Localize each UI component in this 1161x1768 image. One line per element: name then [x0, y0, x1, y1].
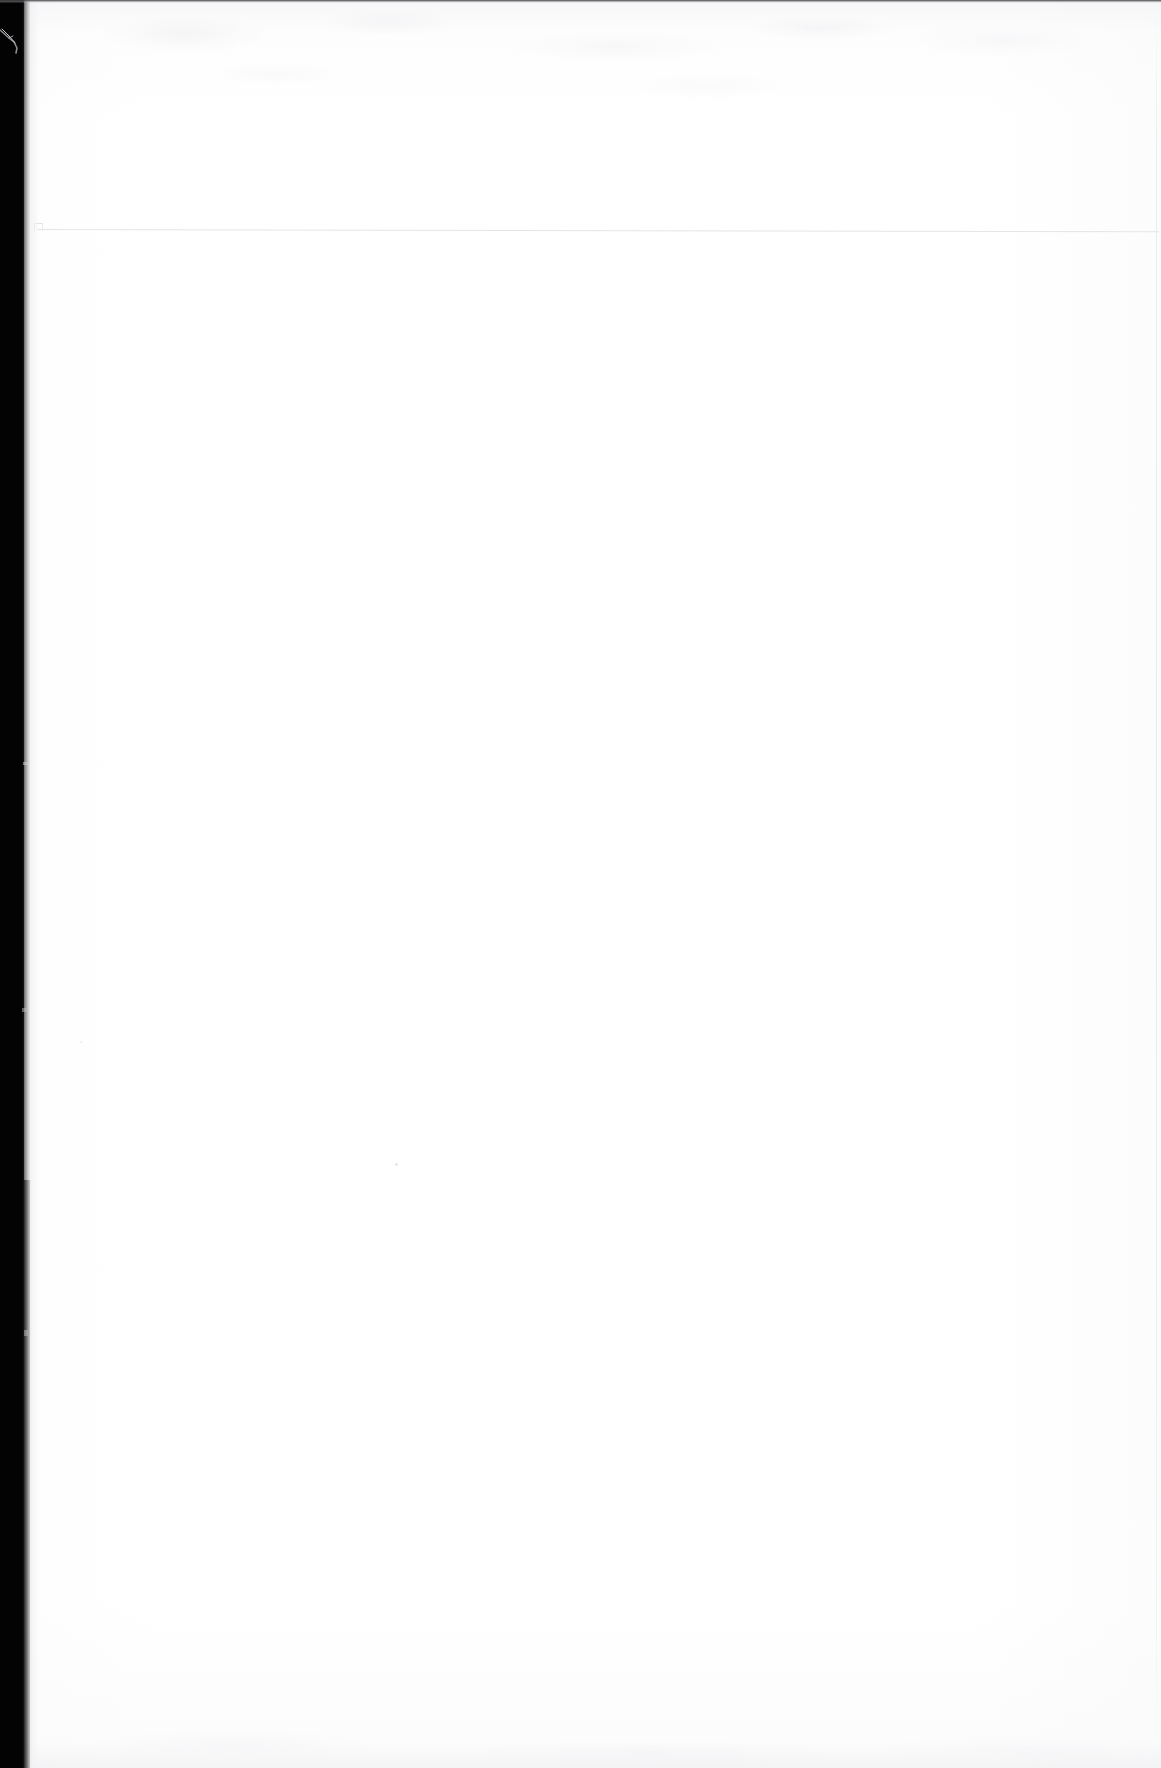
gutter-speck-upper [23, 762, 28, 765]
right-page-edge-line [1156, 0, 1157, 1768]
scanned-page [0, 0, 1161, 1768]
page-content-area [40, 236, 1152, 1716]
gutter-speck-middle [22, 1008, 28, 1012]
body-speck-center [395, 1163, 398, 1166]
binding-gutter-shadow [0, 0, 24, 1768]
reverse-side-bleedthrough-top [26, 2, 1161, 202]
body-speck-left [80, 1041, 82, 1043]
top-scan-border [0, 0, 1161, 3]
page-edge-highlight [30, 0, 40, 1768]
gutter-speck-lower [24, 1330, 28, 1336]
